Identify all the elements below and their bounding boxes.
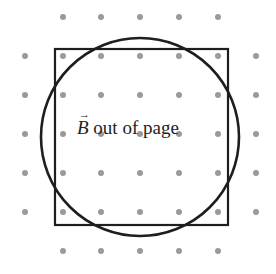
field-dot [60,209,66,215]
vector-arrow-icon: → [79,109,90,120]
field-dot [215,209,221,215]
field-dot [176,248,182,254]
field-dot [22,53,28,59]
field-dot [60,131,66,137]
field-dot [98,170,104,176]
field-dot [176,14,182,20]
field-dot [137,92,143,98]
field-dot [176,53,182,59]
field-label: → B out of page [77,118,179,137]
field-dot [137,248,143,254]
field-dot [98,209,104,215]
field-dot [215,92,221,98]
field-dot [137,14,143,20]
b-symbol: B [77,117,89,138]
field-dot [60,248,66,254]
field-dot [137,209,143,215]
field-dot [215,170,221,176]
field-dot [215,131,221,137]
field-dot [98,14,104,20]
field-dot [60,14,66,20]
field-dot [215,53,221,59]
field-dot [253,53,259,59]
field-dot [22,209,28,215]
field-dot [60,92,66,98]
field-dot [98,92,104,98]
field-dot [137,53,143,59]
field-dot [60,170,66,176]
field-dot [215,14,221,20]
field-dot [22,92,28,98]
vector-b-symbol: → B [77,118,89,137]
field-dot [253,131,259,137]
field-dot [215,248,221,254]
field-dot [22,170,28,176]
field-dot [60,53,66,59]
field-dot [253,209,259,215]
field-dot [176,92,182,98]
field-dot [176,170,182,176]
field-dot [253,170,259,176]
field-dot [137,170,143,176]
field-dot [176,209,182,215]
field-dot [22,131,28,137]
field-dot [98,248,104,254]
field-direction-text: out of page [89,117,179,138]
field-dot [253,92,259,98]
field-dot [98,53,104,59]
